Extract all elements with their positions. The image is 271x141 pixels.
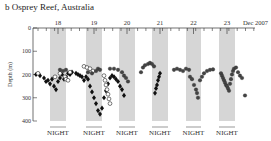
night-bands <box>50 28 235 127</box>
open-circle-marker <box>103 78 107 82</box>
filled-circle-marker <box>126 80 130 84</box>
y-tick-label: 300 <box>22 95 31 101</box>
filled-circle-marker <box>98 68 102 72</box>
open-circle-marker <box>104 83 108 87</box>
filled-circle-marker <box>229 77 233 81</box>
filled-circle-marker <box>120 70 124 74</box>
filled-circle-marker <box>139 70 143 74</box>
open-circle-marker <box>53 75 57 79</box>
night-label: NIGHT <box>83 129 105 137</box>
filled-circle-marker <box>116 68 120 72</box>
open-circle-marker <box>102 74 106 78</box>
filled-circle-marker <box>228 82 232 86</box>
open-circle-marker <box>36 71 40 75</box>
day-label: 23 <box>224 19 231 26</box>
filled-circle-marker <box>108 67 112 71</box>
night-label: NIGHT <box>116 129 138 137</box>
open-circle-marker <box>108 102 112 106</box>
filled-circle-marker <box>196 96 200 100</box>
day-label: 20 <box>124 19 131 26</box>
night-band <box>86 28 102 121</box>
filled-circle-marker <box>86 70 90 74</box>
filled-circle-marker <box>234 66 238 70</box>
night-label: NIGHT <box>216 129 238 137</box>
filled-circle-marker <box>236 70 240 74</box>
filled-circle-marker <box>190 77 194 81</box>
day-label: 19 <box>91 19 98 26</box>
y-axis-label: Depth (m) <box>7 62 14 87</box>
filled-circle-marker <box>211 68 215 72</box>
depth-chart: NIGHT18NIGHT19NIGHT20NIGHT21NIGHT22NIGHT… <box>0 0 271 141</box>
filled-circle-marker <box>90 72 94 76</box>
day-label: 21 <box>157 19 164 26</box>
y-tick-label: 200 <box>22 72 31 78</box>
y-tick-label: 400 <box>22 118 31 124</box>
filled-circle-marker <box>198 79 202 83</box>
filled-circle-marker <box>187 68 191 72</box>
filled-circle-marker <box>192 83 196 87</box>
open-circle-marker <box>68 70 72 74</box>
filled-circle-marker <box>194 88 198 92</box>
night-label: NIGHT <box>47 129 69 137</box>
filled-circle-marker <box>181 69 185 73</box>
day-label: 18 <box>55 19 62 26</box>
y-tick-label: 0 <box>28 25 31 31</box>
night-label: NIGHT <box>149 129 171 137</box>
filled-circle-marker <box>202 72 206 76</box>
filled-circle-marker <box>230 73 234 77</box>
filled-circle-marker <box>195 91 199 95</box>
x-end-label: Dec 2007 <box>243 19 269 26</box>
diamond-marker <box>102 95 106 100</box>
open-circle-marker <box>66 78 70 82</box>
filled-circle-marker <box>243 94 247 98</box>
night-label: NIGHT <box>183 129 205 137</box>
open-circle-marker <box>105 88 109 92</box>
y-tick-label: 100 <box>22 48 31 54</box>
day-label: 22 <box>190 19 197 26</box>
filled-circle-marker <box>240 76 244 80</box>
filled-circle-marker <box>124 76 128 80</box>
filled-circle-marker <box>200 75 204 79</box>
night-band <box>119 28 135 121</box>
filled-circle-marker <box>152 65 156 69</box>
filled-circle-marker <box>227 89 231 93</box>
night-band <box>186 28 201 121</box>
open-circle-marker <box>106 92 110 96</box>
filled-circle-marker <box>112 67 116 71</box>
open-circle-marker <box>107 97 111 101</box>
filled-circle-marker <box>64 68 68 72</box>
